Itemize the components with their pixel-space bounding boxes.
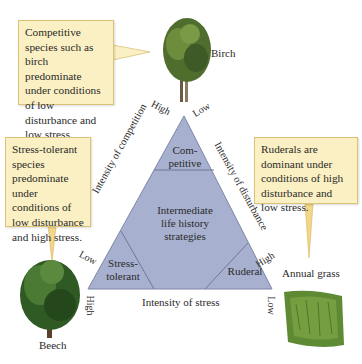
intermediate-region-label: Intermediate life history strategies (144, 204, 226, 243)
competitive-callout: Competitive species such as birch predom… (18, 20, 114, 105)
competitive-region-label: Com- petitive (160, 144, 210, 170)
competitive-callout-pointer (113, 45, 150, 60)
stress-tolerant-region-label: Stress- tolerant (101, 257, 145, 283)
annual-grass-caption: Annual grass (282, 267, 340, 279)
stress-axis-label: Intensity of stress (142, 296, 220, 308)
birch-image (163, 18, 211, 102)
stress-low-label: Low (266, 296, 277, 314)
beech-image (20, 260, 80, 338)
birch-caption: Birch (211, 47, 235, 59)
beech-caption: Beech (39, 339, 66, 351)
ruderal-callout: Ruderals are dominant under conditions o… (254, 137, 358, 204)
annual-grass-image (284, 291, 344, 347)
stress-high-label: High (85, 296, 96, 316)
stress-tolerant-callout: Stress-tolerant species predominate unde… (5, 137, 91, 227)
